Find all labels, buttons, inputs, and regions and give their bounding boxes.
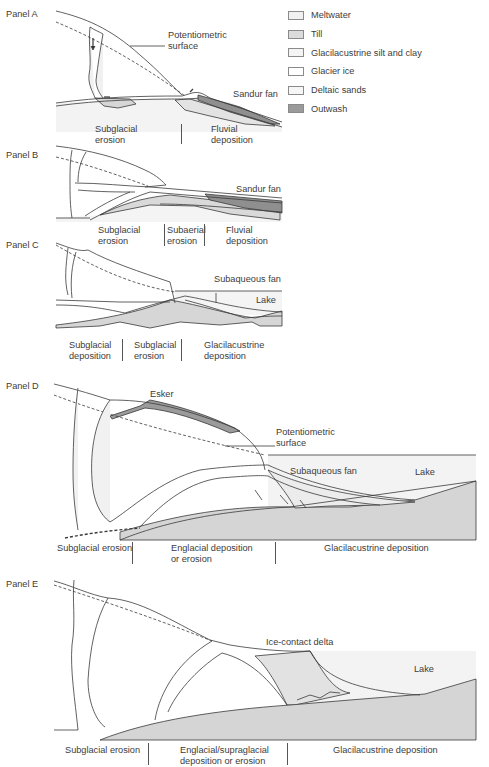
panel-b-zone-fluvial: Fluvial deposition — [226, 225, 268, 247]
legend-label: Glacilacustrine silt and clay — [311, 48, 422, 58]
panel-e-zone-divider-2 — [287, 743, 288, 765]
panel-e-zone-divider-1 — [148, 743, 149, 765]
panel-d-zone-subglacial: Subglacial erosion — [57, 543, 132, 554]
panel-c-zone-divider-1 — [122, 339, 123, 361]
panel-d-potentiometric-label: Potentiometric surface — [276, 427, 335, 449]
panel-e-zone-subglacial: Subglacial erosion — [65, 745, 140, 756]
panel-e-lake-label: Lake — [414, 664, 434, 675]
glacier-ice-swatch-icon — [288, 67, 304, 76]
panel-b-ice-surface — [56, 146, 166, 187]
panel-e-zone-englacial-supraglacial: Englacial/supraglacial deposition or ero… — [180, 745, 269, 767]
panel-a-zone-fluvial: Fluvial deposition — [211, 124, 253, 146]
panel-a-zone-subglacial: Subglacial erosion — [95, 124, 137, 146]
panel-c-ice-surface — [56, 243, 175, 303]
glacilacustrine-swatch-icon — [288, 48, 304, 57]
panel-b-zone-subglacial: Subglacial erosion — [98, 225, 140, 247]
panel-c-lake-label: Lake — [256, 295, 276, 306]
panel-d-lake-label: Lake — [415, 467, 435, 478]
legend-item-glacier-ice: Glacier ice — [288, 62, 422, 81]
panel-b-title: Panel B — [6, 150, 38, 161]
panel-d-zone-englacial: Englacial deposition or erosion — [171, 543, 253, 565]
panel-c-zone-glacilacustrine: Glacilacustrine deposition — [204, 340, 264, 362]
panel-b-zone-divider-2 — [204, 224, 205, 246]
panel-a-potentiometric-surface — [56, 22, 185, 96]
meltwater-swatch-icon — [288, 11, 304, 20]
panel-c-zone-subglacial-deposition: Subglacial deposition — [69, 340, 111, 362]
panel-c-diagram — [56, 243, 282, 328]
legend-label: Deltaic sands — [311, 85, 366, 95]
panel-a-potentiometric-label: Potentiometric surface — [168, 30, 227, 52]
panel-e-delta-label: Ice-contact delta — [266, 637, 333, 648]
legend-item-glacilacustrine: Glacilacustrine silt and clay — [288, 43, 422, 62]
panel-e-zone-glacilacustrine: Glacilacustrine deposition — [333, 745, 438, 756]
panel-b-sandur-label: Sandur fan — [236, 184, 281, 195]
panel-c-title: Panel C — [6, 240, 39, 251]
panel-d-zone-glacilacustrine: Glacilacustrine deposition — [324, 543, 429, 554]
legend-label: Till — [311, 29, 322, 39]
panel-c-subaqueous-label: Subaqueous fan — [214, 274, 281, 285]
panel-d-esker-label: Esker — [150, 389, 174, 400]
legend: Meltwater Till Glacilacustrine silt and … — [288, 6, 422, 118]
panel-a-sandur-label: Sandur fan — [233, 89, 278, 100]
legend-label: Meltwater — [311, 10, 351, 20]
panel-d-title: Panel D — [6, 381, 39, 392]
panel-c-zone-subglacial-erosion: Subglacial erosion — [134, 340, 176, 362]
legend-item-outwash: Outwash — [288, 99, 422, 118]
panel-b-zone-divider-1 — [164, 224, 165, 246]
panel-a-moulin — [89, 27, 103, 98]
panel-e-title: Panel E — [6, 579, 38, 590]
panel-d-moulin — [73, 388, 110, 530]
panel-d-zone-divider-2 — [275, 542, 276, 564]
legend-item-till: Till — [288, 25, 422, 44]
till-swatch-icon — [288, 30, 304, 39]
panel-d-subaqueous-label: Subaqueous fan — [290, 466, 357, 477]
panel-a-title: Panel A — [6, 9, 38, 20]
panel-d-diagram — [54, 384, 476, 540]
legend-item-deltaic-sands: Deltaic sands — [288, 81, 422, 100]
panel-b-zone-subaerial: Subaerial erosion — [167, 225, 206, 247]
panel-d-zone-divider-1 — [132, 542, 133, 564]
outwash-swatch-icon — [288, 104, 304, 113]
panel-e-diagram — [54, 580, 476, 740]
legend-item-meltwater: Meltwater — [288, 6, 422, 25]
legend-label: Outwash — [311, 104, 347, 114]
panel-a-zone-divider — [181, 124, 182, 144]
panel-c-zone-divider-2 — [181, 339, 182, 361]
panel-d-esker — [110, 400, 240, 433]
deltaic-sands-swatch-icon — [288, 86, 304, 95]
legend-label: Glacier ice — [311, 66, 354, 76]
